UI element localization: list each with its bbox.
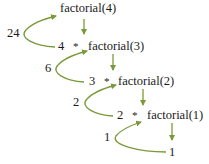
return-arrow-2 (56, 51, 87, 82)
multiplier-2: 2 (117, 109, 123, 122)
return-arrow-1 (24, 16, 56, 47)
return-arrow-3 (85, 85, 116, 116)
multiply-operator: * (104, 75, 110, 88)
base-case-value: 1 (169, 146, 175, 159)
call-factorial-1: factorial(1) (147, 109, 203, 122)
multiplier-4: 4 (58, 40, 64, 53)
call-factorial-4: factorial(4) (60, 2, 116, 15)
return-arrow-4 (115, 122, 166, 152)
return-value-6: 6 (45, 62, 51, 75)
factorial-recursion-diagram: factorial(4) 4 * factorial(3) 3 * factor… (0, 0, 209, 164)
return-value-24: 24 (7, 27, 20, 40)
multiply-operator: * (132, 109, 138, 122)
return-value-1: 1 (104, 131, 110, 144)
return-value-2: 2 (73, 96, 79, 109)
call-factorial-3: factorial(3) (88, 40, 144, 53)
call-factorial-2: factorial(2) (118, 75, 174, 88)
multiply-operator: * (73, 40, 79, 53)
multiplier-3: 3 (89, 75, 95, 88)
